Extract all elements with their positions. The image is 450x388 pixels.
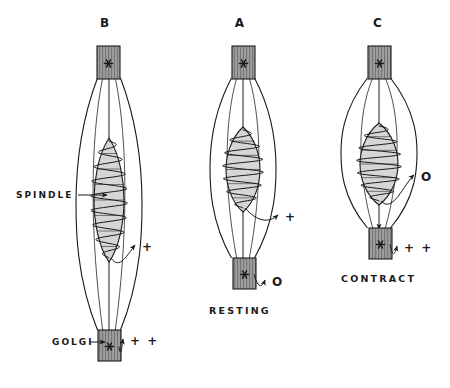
annotation-golgi-output-a: O [272,275,284,289]
part-label-golgi: GOLGI [52,337,94,347]
state-label-a: RESTING [209,305,271,316]
part-label-spindle: SPINDLE [16,190,73,200]
annotation-arrow-spindle-output-a [245,208,278,220]
annotation-golgi-output-c: + + [404,241,433,255]
annotation-golgi-output-b: + + [130,334,159,348]
state-label-c: CONTRACT [341,273,416,284]
annotation-spindle-output-b: + [142,240,154,254]
annotation-spindle-output-c: O [421,170,433,184]
panel-c [341,46,417,259]
annotation-spindle-output-a: + [285,210,297,224]
panel-letter-a: A [220,16,260,30]
figure-canvas: B++ +SPINDLEGOLGIARESTING+OCCONTRACTO+ + [0,0,450,388]
panel-b [76,46,142,361]
panel-a [210,46,278,289]
panel-letter-c: C [358,16,398,30]
panel-letter-b: B [85,16,125,30]
